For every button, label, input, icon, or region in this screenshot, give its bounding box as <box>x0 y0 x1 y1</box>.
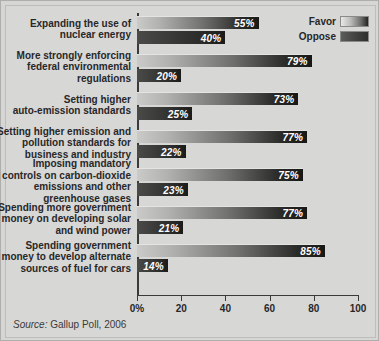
legend-item-oppose[interactable]: Oppose <box>297 30 369 43</box>
bar-value-label: 14% <box>143 260 164 271</box>
bar-oppose[interactable]: 40% <box>137 31 225 44</box>
legend-label-favor: Favor <box>309 16 336 27</box>
x-axis-line <box>137 295 358 296</box>
bar-favor[interactable]: 73% <box>137 92 298 105</box>
category-label: Imposing mandatory controls on carbon-di… <box>0 158 131 204</box>
category-label: Setting higher auto-emission standards <box>0 94 131 117</box>
bar-favor[interactable]: 79% <box>137 54 312 67</box>
x-axis-tick-label: 40 <box>220 303 231 314</box>
bar-group: 77%21% <box>137 203 358 241</box>
bar-favor[interactable]: 85% <box>137 244 325 257</box>
legend: Favor Oppose <box>297 14 369 46</box>
x-axis-tick-label: 60 <box>264 303 275 314</box>
legend-swatch-oppose-icon <box>340 31 369 42</box>
x-axis-tick-label: 0% <box>130 303 144 314</box>
bar-value-label: 75% <box>278 170 299 181</box>
source-text: Gallup Poll, 2006 <box>47 319 126 330</box>
bar-value-label: 85% <box>300 246 321 257</box>
bar-favor[interactable]: 77% <box>137 130 307 143</box>
bar-favor[interactable]: 55% <box>137 16 259 29</box>
bar-oppose[interactable]: 22% <box>137 145 186 158</box>
bar-group: 73%25% <box>137 89 358 127</box>
x-axis-tick <box>358 295 359 301</box>
bar-value-label: 20% <box>157 70 178 81</box>
bar-oppose[interactable]: 25% <box>137 107 192 120</box>
bar-value-label: 79% <box>287 56 308 67</box>
bar-group: 77%22% <box>137 127 358 165</box>
chart-frame: Expanding the use of nuclear energyMore … <box>0 0 379 341</box>
x-axis-tick <box>270 295 271 301</box>
bar-value-label: 23% <box>163 184 184 195</box>
x-axis-tick <box>181 295 182 301</box>
bar-oppose[interactable]: 14% <box>137 259 168 272</box>
legend-label-oppose: Oppose <box>299 31 336 42</box>
x-axis-tick <box>314 295 315 301</box>
bar-oppose[interactable]: 21% <box>137 221 183 234</box>
x-axis-tick <box>137 295 138 301</box>
bar-value-label: 73% <box>274 94 295 105</box>
bar-oppose[interactable]: 23% <box>137 183 188 196</box>
bar-group: 79%20% <box>137 51 358 89</box>
category-label: Setting higher emission and pollution st… <box>0 126 131 161</box>
x-axis-tick-label: 100 <box>350 303 367 314</box>
category-label: Spending government money to develop alt… <box>0 240 131 275</box>
bar-oppose[interactable]: 20% <box>137 69 181 82</box>
bars-plot-area: 55%40%79%20%73%25%77%22%75%23%77%21%85%1… <box>137 13 358 293</box>
bar-group: 85%14% <box>137 241 358 279</box>
x-axis-tick-label: 80 <box>308 303 319 314</box>
category-label: More strongly enforcing federal environm… <box>0 50 131 85</box>
source-note: Source: Gallup Poll, 2006 <box>13 319 126 330</box>
legend-item-favor[interactable]: Favor <box>297 15 369 28</box>
category-label: Expanding the use of nuclear energy <box>0 18 131 41</box>
x-axis-tick-label: 20 <box>176 303 187 314</box>
bar-group: 75%23% <box>137 165 358 203</box>
source-prefix: Source: <box>13 319 47 330</box>
bar-value-label: 55% <box>234 18 255 29</box>
bar-favor[interactable]: 75% <box>137 168 303 181</box>
bar-value-label: 25% <box>168 108 189 119</box>
bar-value-label: 22% <box>161 146 182 157</box>
legend-swatch-favor-icon <box>340 16 369 27</box>
bar-value-label: 77% <box>283 132 304 143</box>
bar-favor[interactable]: 77% <box>137 206 307 219</box>
x-axis-tick <box>225 295 226 301</box>
bar-value-label: 40% <box>201 32 222 43</box>
category-label: Spending more government money on develo… <box>0 202 131 237</box>
bar-value-label: 21% <box>159 222 180 233</box>
bar-value-label: 77% <box>283 208 304 219</box>
